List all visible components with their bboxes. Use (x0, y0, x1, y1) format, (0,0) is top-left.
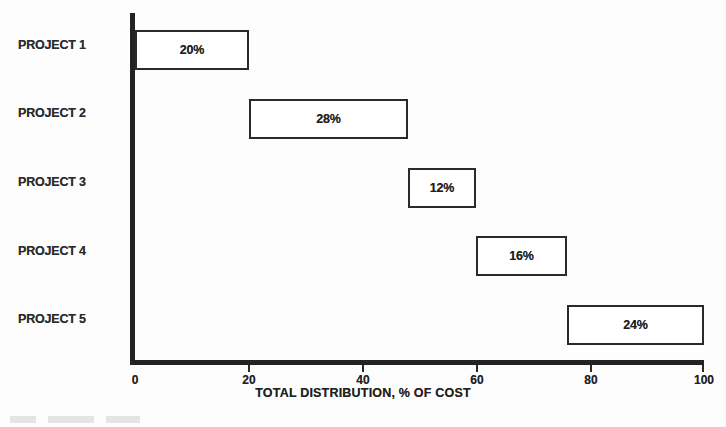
scan-edge-artifact (10, 416, 310, 423)
bar-project-4: 16% (476, 236, 567, 276)
x-axis-line (130, 360, 704, 365)
bar-value-project-3: 12% (430, 181, 454, 195)
category-label-project-3: PROJECT 3 (18, 175, 126, 189)
x-tick-40 (362, 365, 364, 372)
category-label-project-5: PROJECT 5 (18, 312, 126, 326)
category-label-project-2: PROJECT 2 (18, 106, 126, 120)
bar-value-project-4: 16% (509, 249, 533, 263)
x-tick-label-80: 80 (584, 373, 597, 387)
plot-area: 20% 28% 12% 16% 24% 0 20 40 60 80 100 (135, 13, 704, 360)
bar-project-2: 28% (249, 99, 408, 139)
bar-project-3: 12% (408, 168, 476, 208)
bar-value-project-1: 20% (180, 43, 204, 57)
x-tick-label-20: 20 (242, 373, 255, 387)
x-tick-20 (248, 365, 250, 372)
x-tick-100 (702, 365, 704, 372)
x-tick-label-100: 100 (694, 373, 714, 387)
bar-project-1: 20% (135, 30, 249, 70)
category-label-project-4: PROJECT 4 (18, 244, 126, 258)
category-label-project-1: PROJECT 1 (18, 38, 126, 52)
x-tick-60 (476, 365, 478, 372)
bar-value-project-5: 24% (623, 318, 647, 332)
chart-figure: PROJECT 1 PROJECT 2 PROJECT 3 PROJECT 4 … (0, 0, 726, 427)
x-tick-label-40: 40 (356, 373, 369, 387)
x-tick-label-0: 0 (132, 373, 139, 387)
x-tick-label-60: 60 (470, 373, 483, 387)
bar-project-5: 24% (567, 305, 704, 345)
x-tick-80 (590, 365, 592, 372)
x-axis-title: TOTAL DISTRIBUTION, % OF COST (0, 386, 726, 400)
bar-value-project-2: 28% (316, 112, 340, 126)
